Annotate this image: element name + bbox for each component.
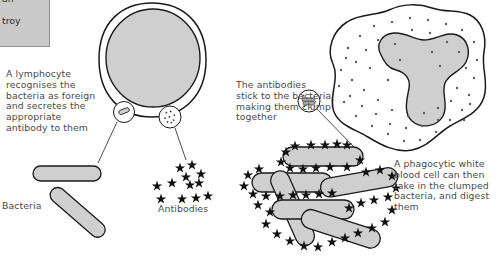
lymphocyte-cell <box>99 3 206 117</box>
free-antibodies-group <box>152 160 213 204</box>
label-bacteria: Bacteria <box>2 201 41 212</box>
callout-antibody-icon <box>159 106 181 128</box>
caption-lymphocyte: A lymphocyte recognises the bacteria as … <box>6 69 110 134</box>
clumped-bacteria-group <box>239 139 401 252</box>
free-bacteria-group <box>33 166 108 240</box>
caption-phagocyte: A phagocytic white blood cell can then t… <box>394 159 498 213</box>
phagocyte-cell <box>330 5 485 151</box>
caption-clumping: The antibodies stick to the bacteria mak… <box>236 80 348 123</box>
bacterium-rod <box>47 184 108 240</box>
diagram-canvas: an troy <box>0 0 498 259</box>
label-antibodies: Antibodies <box>158 204 208 215</box>
clumped-bacterium-rod <box>283 147 363 166</box>
lymphocyte-nucleus <box>106 9 200 107</box>
bacterium-rod <box>33 166 101 181</box>
callout-bacterium-icon <box>114 102 135 123</box>
